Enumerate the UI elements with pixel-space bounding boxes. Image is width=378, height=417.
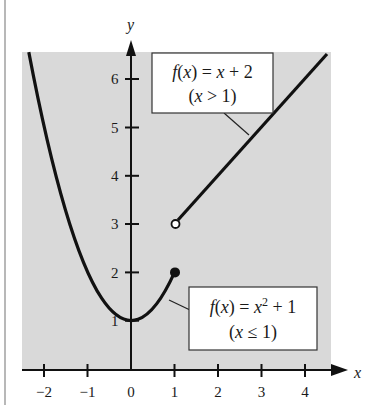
y-axis-arrow-icon <box>126 40 136 56</box>
x-tick-label: −1 <box>80 384 96 400</box>
y-axis-label: y <box>125 16 135 34</box>
y-tick-label: 2 <box>111 265 119 281</box>
x-axis-arrow-icon <box>331 364 348 376</box>
y-tick-label: 4 <box>111 168 119 184</box>
x-tick-label: −2 <box>36 384 52 400</box>
y-tick-label: 3 <box>111 216 119 232</box>
x-tick-label: 1 <box>171 384 179 400</box>
x-tick-label: 0 <box>127 384 135 400</box>
x-tick-label: 3 <box>258 384 266 400</box>
x-axis-label: x <box>353 364 361 381</box>
lower-condition: (x ≤ 1) <box>229 322 277 343</box>
upper-condition: (x > 1) <box>188 86 236 107</box>
lower-formula: f(x) = x2 + 1 <box>210 295 296 318</box>
y-tick-label: 5 <box>111 120 119 136</box>
x-tick-label: 2 <box>214 384 222 400</box>
x-tick-label: 4 <box>301 384 309 400</box>
closed-endpoint-dot <box>170 267 180 277</box>
x-axis: x −2 −1 0 1 2 3 4 <box>22 364 361 400</box>
lower-annotation: f(x) = x2 + 1 (x ≤ 1) <box>169 287 317 350</box>
y-tick-label: 6 <box>111 71 119 87</box>
open-endpoint-circle <box>172 220 180 228</box>
piecewise-chart: y 1 2 3 4 5 6 x −2 −1 0 1 2 <box>0 0 378 417</box>
upper-formula: f(x) = x + 2 <box>172 62 252 83</box>
